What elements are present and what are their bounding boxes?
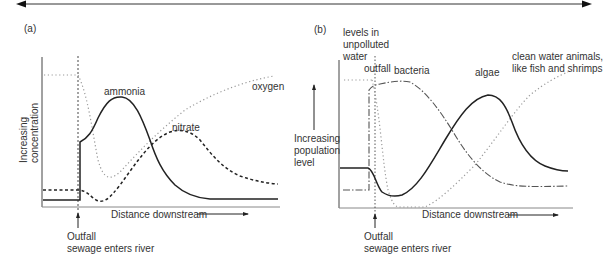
clean-water-label-line1: clean water animals, [512, 51, 603, 62]
nitrate-label: nitrate [172, 122, 200, 133]
bacteria-curve [343, 81, 568, 190]
bacteria-label: bacteria [394, 65, 430, 76]
oxygen-label: oxygen [252, 81, 284, 92]
unpolluted-label-line3: water [343, 51, 367, 62]
ammonia-label: ammonia [104, 86, 145, 97]
unpolluted-label-line1: levels in [343, 27, 379, 38]
panel-a-chart [42, 56, 280, 228]
clean-water-animals-curve [372, 72, 568, 207]
panel-a-y-axis-label-line2: concentration [29, 103, 40, 163]
top-double-arrow [16, 1, 592, 8]
algae-label: algae [475, 67, 499, 78]
panel-a-x-axis-label: Distance downstream [111, 209, 207, 220]
panel-a-outfall-sublabel: sewage enters river [67, 243, 154, 254]
panel-a-outfall-label: Outfall [67, 231, 96, 242]
clean-water-label-line2: like fish and shrimps [512, 63, 603, 74]
unpolluted-label-line2: unpolluted [343, 39, 389, 50]
panel-b-y-axis-label-line2: population [294, 145, 340, 156]
panel-b-x-axis-label: Distance downstream [422, 209, 518, 220]
panel-b-chart [314, 56, 573, 228]
outfall-marker-label: outfall [364, 63, 391, 74]
panel-a-y-axis-label-line1: Increasing [18, 117, 29, 163]
algae-curve [340, 95, 568, 196]
panel-a-label: (a) [24, 23, 36, 34]
panel-b-outfall-sublabel: sewage enters river [364, 243, 451, 254]
panel-b-y-axis-label-line3: level [294, 157, 315, 168]
panel-b-y-axis-label-line1: Increasing [294, 133, 340, 144]
panel-b-label: (b) [314, 24, 326, 35]
panel-b-outfall-label: Outfall [364, 231, 393, 242]
